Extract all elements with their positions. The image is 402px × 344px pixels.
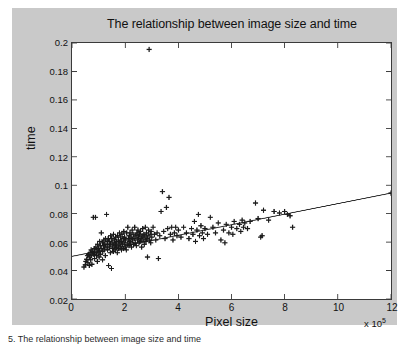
- y-tick-label: 0.1: [55, 180, 68, 191]
- scatter-canvas: [72, 43, 391, 299]
- y-tick-label: 0.18: [50, 65, 69, 76]
- x-tick-label: 12: [386, 302, 397, 313]
- x-tick-label: 2: [122, 302, 128, 313]
- exponent-prefix: x 10: [364, 318, 382, 329]
- x-axis-label: Pixel size: [71, 315, 392, 329]
- y-tick-label: 0.16: [50, 94, 69, 105]
- y-tick-label: 0.2: [55, 37, 68, 48]
- y-tick-label: 0.02: [50, 295, 69, 306]
- plot-area: [71, 42, 392, 300]
- x-tick-label: 8: [282, 302, 288, 313]
- figure-background: The relationship between image size and …: [12, 8, 397, 325]
- x-tick-label: 6: [229, 302, 235, 313]
- y-tick-label: 0.14: [50, 123, 69, 134]
- chart-title: The relationship between image size and …: [67, 17, 397, 31]
- y-tick-label: 0.08: [50, 209, 69, 220]
- figure-caption: 5. The relationship between image size a…: [8, 334, 398, 344]
- y-axis-tick-labels: 0.020.040.060.080.10.120.140.160.180.2: [12, 42, 68, 300]
- y-tick-label: 0.04: [50, 266, 69, 277]
- x-tick-label: 10: [333, 302, 344, 313]
- exponent-power: 5: [382, 317, 386, 324]
- x-axis-exponent: x 105: [364, 317, 386, 329]
- y-tick-label: 0.12: [50, 151, 69, 162]
- y-tick-label: 0.06: [50, 237, 69, 248]
- x-tick-label: 4: [175, 302, 181, 313]
- x-tick-label: 0: [68, 302, 74, 313]
